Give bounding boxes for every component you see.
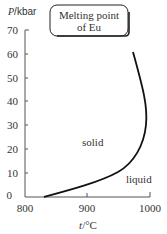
svg-text:30: 30 <box>7 119 19 131</box>
svg-text:40: 40 <box>7 95 19 107</box>
chart: P/kbar Melting point of Eu 70 60 50 40 3… <box>0 0 167 234</box>
chart-title-line2: of Eu <box>77 21 102 33</box>
svg-text:0: 0 <box>7 189 13 201</box>
svg-text:900: 900 <box>79 202 96 214</box>
y-axis-label: P/kbar <box>7 6 37 17</box>
x-tick-labels: 800 900 1000 <box>17 202 162 214</box>
y-tick-labels: 70 60 50 40 30 20 10 0 <box>7 24 19 201</box>
svg-text:60: 60 <box>7 48 19 60</box>
svg-text:1000: 1000 <box>139 202 162 214</box>
svg-text:50: 50 <box>7 72 19 84</box>
svg-text:70: 70 <box>7 24 19 36</box>
svg-text:20: 20 <box>7 143 19 155</box>
svg-text:10: 10 <box>7 167 19 179</box>
solid-region-label: solid <box>82 136 104 148</box>
title-box: Melting point of Eu <box>50 5 129 36</box>
chart-title-line1: Melting point <box>59 9 119 21</box>
liquid-region-label: liquid <box>126 173 152 185</box>
svg-text:800: 800 <box>17 202 34 214</box>
y-axis <box>25 30 29 197</box>
x-axis-label: t/°C <box>79 219 97 231</box>
x-axis <box>25 192 150 197</box>
